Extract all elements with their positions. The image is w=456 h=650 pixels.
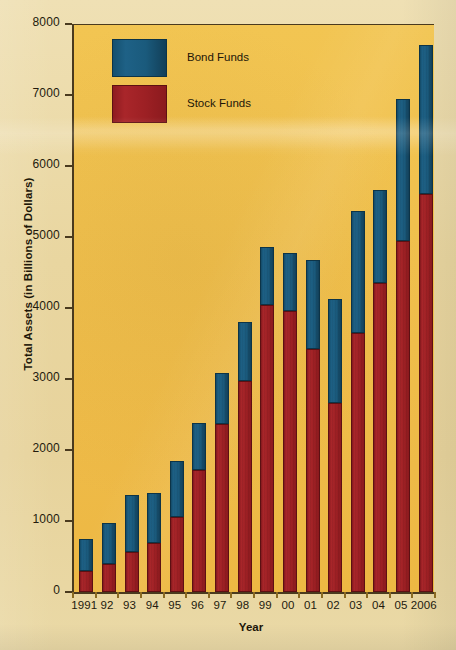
y-tick-mark xyxy=(65,520,72,522)
x-axis-tick-labels: 199192939495969798990001020304052006 xyxy=(72,599,434,617)
stacked-bar xyxy=(396,99,410,592)
y-tick-mark xyxy=(65,23,72,25)
x-tick-mark-line xyxy=(72,592,74,598)
x-tick-label: 94 xyxy=(146,599,159,611)
x-tick-label: 95 xyxy=(168,599,181,611)
bar-segment-stock-funds xyxy=(79,571,93,592)
bar-segment-bond-funds xyxy=(283,253,297,311)
x-tick-label: 03 xyxy=(349,599,362,611)
bar-segment-bond-funds xyxy=(238,322,252,382)
bar-segment-bond-funds xyxy=(170,461,184,517)
bar-segment-stock-funds xyxy=(396,241,410,592)
x-tick-mark-line xyxy=(117,592,119,598)
bar-segment-bond-funds xyxy=(215,373,229,425)
bar-segment-bond-funds xyxy=(79,539,93,571)
x-tick-mark-line xyxy=(163,592,165,598)
bar-segment-stock-funds xyxy=(419,194,433,592)
stacked-bar xyxy=(373,190,387,592)
bar-segment-bond-funds xyxy=(147,493,161,543)
stacked-bar xyxy=(351,211,365,592)
bar-segment-stock-funds xyxy=(238,381,252,592)
bar-segment-stock-funds xyxy=(373,283,387,592)
x-tick-label: 96 xyxy=(191,599,204,611)
bar-segment-stock-funds xyxy=(125,552,139,592)
x-tick-mark-line xyxy=(411,592,413,598)
bar-segment-bond-funds xyxy=(419,45,433,194)
y-tick-label: 1000 xyxy=(33,512,61,526)
stacked-bar xyxy=(306,260,320,592)
bar-segment-bond-funds xyxy=(125,495,139,552)
stacked-bar xyxy=(79,539,93,592)
stacked-bar xyxy=(147,493,161,592)
bar-segment-bond-funds xyxy=(351,211,365,332)
legend-swatch-stock-funds xyxy=(112,85,167,123)
stacked-bar xyxy=(102,523,116,592)
stacked-bar xyxy=(125,495,139,592)
bar-segment-stock-funds xyxy=(260,305,274,592)
x-tick-mark-line xyxy=(434,592,436,598)
bar-segment-bond-funds xyxy=(102,523,116,563)
y-tick-label: 8000 xyxy=(33,15,61,29)
bar-segment-stock-funds xyxy=(102,564,116,592)
bar-segment-stock-funds xyxy=(351,333,365,592)
plot-area: Bond FundsStock Funds xyxy=(72,24,434,592)
x-tick-mark-line xyxy=(253,592,255,598)
bar-segment-bond-funds xyxy=(396,99,410,242)
stacked-bar xyxy=(170,461,184,592)
y-tick-label: 0 xyxy=(53,583,60,597)
stacked-bar xyxy=(215,373,229,592)
x-tick-label: 05 xyxy=(395,599,408,611)
stacked-bar xyxy=(192,423,206,592)
bar-segment-stock-funds xyxy=(192,470,206,592)
x-tick-label: 97 xyxy=(214,599,227,611)
x-axis-title: Year xyxy=(0,621,456,633)
chart-figure: 010002000300040005000600070008000 Total … xyxy=(0,0,456,650)
x-tick-label: 98 xyxy=(236,599,249,611)
y-tick-label: 5000 xyxy=(33,228,61,242)
bar-segment-stock-funds xyxy=(215,424,229,592)
x-tick-label: 1991 xyxy=(71,599,97,611)
bar-segment-stock-funds xyxy=(283,311,297,592)
bar-segment-stock-funds xyxy=(147,543,161,592)
x-tick-label: 99 xyxy=(259,599,272,611)
x-tick-mark-line xyxy=(95,592,97,598)
stacked-bar xyxy=(283,253,297,592)
x-tick-mark-line xyxy=(389,592,391,598)
bar-segment-bond-funds xyxy=(306,260,320,349)
bar-segment-stock-funds xyxy=(306,349,320,592)
x-tick-mark-line xyxy=(276,592,278,598)
x-tick-label: 00 xyxy=(281,599,294,611)
y-tick-label: 7000 xyxy=(33,86,61,100)
stacked-bar xyxy=(419,45,433,592)
y-tick-mark xyxy=(65,378,72,380)
bar-segment-bond-funds xyxy=(192,423,206,470)
x-tick-label: 02 xyxy=(327,599,340,611)
x-tick-mark-line xyxy=(298,592,300,598)
x-tick-label: 01 xyxy=(304,599,317,611)
y-tick-mark xyxy=(65,591,72,593)
bar-segment-stock-funds xyxy=(328,403,342,592)
bar-segment-bond-funds xyxy=(373,190,387,283)
y-tick-label: 6000 xyxy=(33,157,61,171)
x-tick-label: 93 xyxy=(123,599,136,611)
bar-segment-bond-funds xyxy=(328,299,342,403)
y-tick-mark xyxy=(65,449,72,451)
x-tick-mark-line xyxy=(185,592,187,598)
y-tick-label: 4000 xyxy=(33,299,61,313)
stacked-bar xyxy=(260,247,274,592)
x-tick-label: 92 xyxy=(100,599,113,611)
y-tick-mark xyxy=(65,236,72,238)
y-tick-mark xyxy=(65,94,72,96)
x-tick-mark-line xyxy=(321,592,323,598)
bar-segment-bond-funds xyxy=(260,247,274,305)
stacked-bar xyxy=(328,299,342,592)
y-tick-mark xyxy=(65,307,72,309)
y-axis-title: Total Assets (in Billions of Dollars) xyxy=(22,154,34,394)
y-tick-label: 3000 xyxy=(33,370,61,384)
x-tick-label: 04 xyxy=(372,599,385,611)
bar-segment-stock-funds xyxy=(170,517,184,592)
y-tick-label: 2000 xyxy=(33,441,61,455)
legend-swatch-bond-funds xyxy=(112,39,167,77)
x-tick-mark-line xyxy=(230,592,232,598)
x-tick-mark-line xyxy=(366,592,368,598)
